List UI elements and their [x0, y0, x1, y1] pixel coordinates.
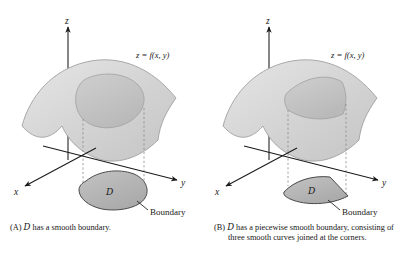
surface-equation-label-b: z = f(x, y)	[330, 50, 365, 60]
boundary-label-a: Boundary	[150, 207, 186, 217]
figure-panel-b: z x y z = f(x, y) D Boundary (B) D has a…	[200, 0, 401, 275]
domain-region-b	[284, 177, 348, 204]
x-axis-label-b: x	[214, 187, 220, 197]
diagram-a: z x y z = f(x, y) D Boundary	[0, 0, 200, 222]
y-axis-label-a: y	[180, 178, 186, 188]
caption-symbol-a: D	[24, 222, 31, 232]
caption-marker-a: (A)	[10, 223, 22, 232]
caption-a: (A) D has a smooth boundary.	[0, 222, 200, 233]
z-axis-label-a: z	[64, 16, 69, 26]
x-axis-label-a: x	[13, 187, 19, 197]
figure-pair: z x y z = f(x, y) D Boundary (A) D has a…	[0, 0, 401, 275]
diagram-b: z x y z = f(x, y) D Boundary	[200, 0, 401, 222]
domain-label-b: D	[307, 185, 316, 196]
caption-marker-b: (B)	[214, 223, 225, 232]
caption-text-b: has a piecewise smooth boundary, consist…	[228, 223, 394, 242]
surface-equation-label-a: z = f(x, y)	[135, 50, 170, 60]
boundary-label-b: Boundary	[342, 207, 378, 217]
y-axis-label-b: y	[381, 178, 387, 188]
caption-b: (B) D has a piecewise smooth boundary, c…	[200, 222, 401, 243]
domain-label-a: D	[105, 186, 114, 197]
caption-symbol-b: D	[227, 222, 234, 232]
boundary-leader-line-a	[137, 201, 148, 210]
x-axis-line-b	[226, 148, 297, 186]
caption-text-a: has a smooth boundary.	[33, 223, 111, 232]
figure-panel-a: z x y z = f(x, y) D Boundary (A) D has a…	[0, 0, 200, 275]
z-axis-label-b: z	[265, 16, 270, 26]
x-axis-line-a	[25, 148, 96, 186]
